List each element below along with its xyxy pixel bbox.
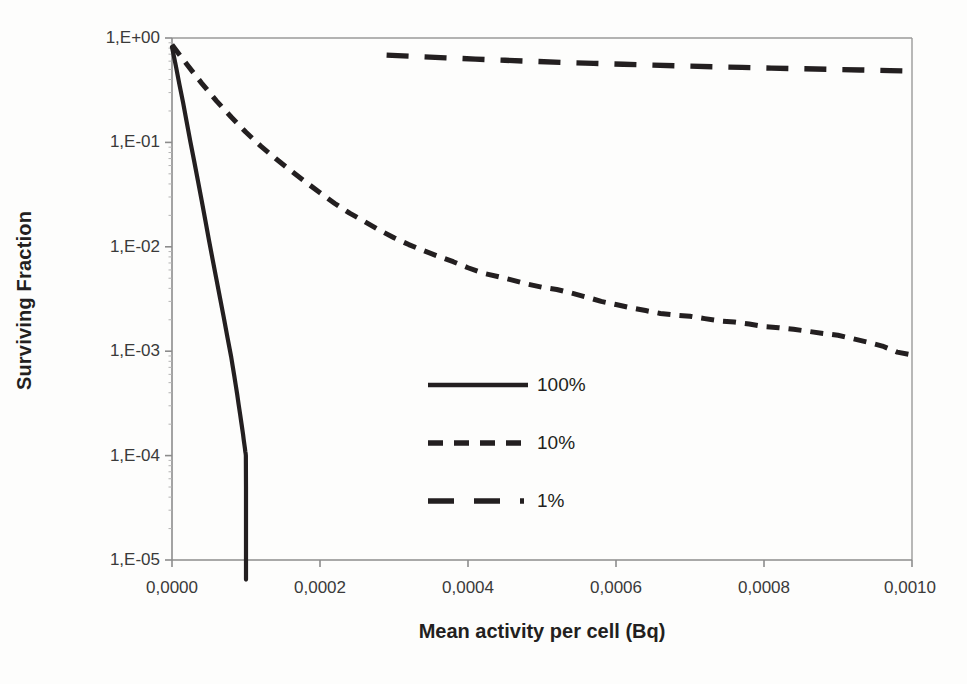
x-axis-ticks: [172, 560, 912, 567]
series-line-10: [172, 45, 912, 355]
series-line-1: [387, 55, 912, 71]
series-line-100: [172, 47, 246, 580]
chart-figure: Surviving Fraction Mean activity per cel…: [0, 0, 967, 684]
legend-swatches: [428, 385, 528, 501]
y-axis-major-ticks: [165, 38, 172, 560]
plot-canvas: [0, 0, 967, 684]
axes-group: [165, 38, 912, 567]
data-series-group: [172, 45, 912, 580]
